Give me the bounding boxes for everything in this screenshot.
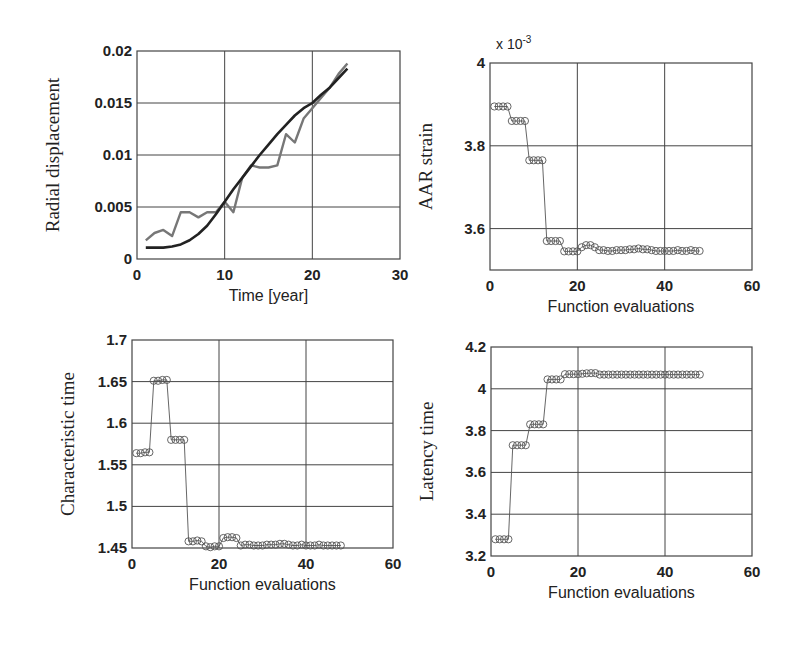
x-tick-label: 20 <box>211 555 228 572</box>
x-axis-label: Function evaluations <box>189 576 336 593</box>
x-tick-label: 20 <box>304 266 321 283</box>
y-tick-label: 0.005 <box>94 198 132 215</box>
x-tick-label: 0 <box>133 266 141 283</box>
y-axis-label: Latency time <box>416 402 437 502</box>
y-tick-label: 3.4 <box>465 505 487 522</box>
y-tick-label: 0 <box>124 250 132 267</box>
y-tick-label: 1.65 <box>98 373 127 390</box>
y-tick-label: 0.01 <box>103 146 132 163</box>
y-tick-label: 3.6 <box>464 220 485 237</box>
x-tick-label: 10 <box>216 266 233 283</box>
y-axis-label: AAR strain <box>415 122 436 210</box>
x-tick-label: 40 <box>656 277 673 294</box>
exponent-label: x 10-3 <box>496 34 532 52</box>
x-tick-label: 0 <box>486 277 494 294</box>
x-axis-label: Function evaluations <box>548 584 695 601</box>
y-tick-label: 4 <box>478 380 487 397</box>
x-tick-label: 0 <box>128 555 136 572</box>
plot-latency: 02040603.23.43.63.844.2Function evaluati… <box>416 338 760 601</box>
y-tick-label: 3.6 <box>465 463 486 480</box>
y-tick-label: 4 <box>477 54 486 71</box>
y-axis-label: Radial displacement <box>42 77 63 232</box>
y-tick-label: 1.5 <box>106 497 127 514</box>
x-axis-label: Time [year] <box>229 287 308 304</box>
x-tick-label: 0 <box>487 563 495 580</box>
y-tick-label: 3.8 <box>465 422 486 439</box>
figure-canvas: 010203000.0050.010.0150.02Time [year]Rad… <box>0 0 799 646</box>
y-tick-label: 3.8 <box>464 137 485 154</box>
x-tick-label: 20 <box>570 563 587 580</box>
y-tick-label: 0.02 <box>103 42 132 59</box>
x-tick-label: 60 <box>744 277 761 294</box>
y-tick-label: 4.2 <box>465 338 486 355</box>
x-tick-label: 30 <box>392 266 409 283</box>
y-tick-label: 1.45 <box>98 539 127 556</box>
x-tick-label: 40 <box>298 555 315 572</box>
plot-radial: 010203000.0050.010.0150.02Time [year]Rad… <box>42 42 408 304</box>
x-tick-label: 40 <box>657 563 674 580</box>
y-tick-label: 3.2 <box>465 547 486 564</box>
x-axis-label: Function evaluations <box>548 298 695 315</box>
plot-aar: 02040603.63.84Function evaluationsAAR st… <box>415 34 760 315</box>
plot-characteristic: 02040601.451.51.551.61.651.7Function eva… <box>57 331 401 593</box>
axes-frame <box>490 63 752 270</box>
y-axis-label: Characteristic time <box>57 372 78 516</box>
y-tick-label: 1.6 <box>106 414 127 431</box>
y-tick-label: 1.55 <box>98 456 127 473</box>
y-tick-label: 1.7 <box>106 331 127 348</box>
y-tick-label: 0.015 <box>94 94 132 111</box>
x-tick-label: 20 <box>569 277 586 294</box>
x-tick-label: 60 <box>385 555 402 572</box>
x-tick-label: 60 <box>744 563 761 580</box>
axes-frame <box>132 340 393 548</box>
